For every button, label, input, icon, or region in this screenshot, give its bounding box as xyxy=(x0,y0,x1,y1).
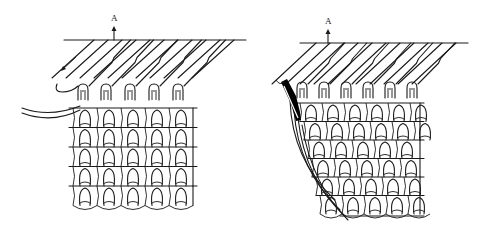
needles-left xyxy=(78,40,226,100)
stitch-leg xyxy=(121,186,123,206)
stitch-loop xyxy=(104,169,115,187)
stitch-leg xyxy=(145,167,147,187)
hatch-line xyxy=(356,43,400,84)
stitch-leg xyxy=(169,147,171,167)
stitch-loop xyxy=(104,110,115,128)
sinker-arc xyxy=(151,182,163,184)
stitch-leg xyxy=(334,159,336,178)
stitch-leg xyxy=(97,108,99,128)
stitch-loop xyxy=(176,169,187,187)
needle-hook xyxy=(341,82,351,98)
stitch-loop xyxy=(80,130,91,148)
needle-bed-hatching-left xyxy=(52,40,234,78)
bottom-scallop xyxy=(169,206,193,210)
stitch-leg xyxy=(396,140,398,159)
sinker-arc xyxy=(127,143,139,145)
sinker-arc xyxy=(127,124,139,126)
needle-latch xyxy=(151,91,157,100)
sinker-arc xyxy=(175,143,187,145)
stitch-leg xyxy=(352,140,354,159)
stitch-loop xyxy=(402,142,413,159)
stitch-leg xyxy=(322,103,324,122)
sinker-arc xyxy=(331,136,343,138)
sinker-arc xyxy=(401,155,413,157)
stitch-loop xyxy=(380,142,391,159)
stitch-loop xyxy=(350,105,361,122)
sinker-arc xyxy=(79,163,91,165)
sinker-arc xyxy=(305,118,317,120)
bottom-scallop xyxy=(320,214,342,218)
hatch-line xyxy=(370,43,414,84)
sinker-arc xyxy=(175,202,187,204)
stitch-loop xyxy=(176,110,187,128)
edge-strand xyxy=(302,125,348,220)
sinker-arc xyxy=(151,163,163,165)
stitch-loop xyxy=(314,142,325,159)
sinker-arc xyxy=(79,124,91,126)
sinker-arc xyxy=(361,173,373,175)
stitch-leg xyxy=(404,177,406,196)
stitch-loop xyxy=(414,198,425,215)
needle-latch xyxy=(343,89,349,98)
stitch-leg xyxy=(326,122,328,141)
sinker-arc xyxy=(369,210,381,212)
sinker-arc xyxy=(325,210,337,212)
sinker-arc xyxy=(393,118,405,120)
needle-stem xyxy=(308,43,345,84)
needle-bed-hatching-right xyxy=(272,43,456,84)
stitch-loop xyxy=(128,188,139,206)
stitch-leg xyxy=(97,167,99,187)
sinker-arc xyxy=(383,173,395,175)
needle-latch xyxy=(175,91,181,100)
sinker-arc xyxy=(103,163,115,165)
stitch-leg xyxy=(145,186,147,206)
stitch-loop xyxy=(152,149,163,167)
label-a-right: A xyxy=(325,16,332,26)
stitch-loop xyxy=(332,124,343,141)
stitch-leg xyxy=(330,140,332,159)
sinker-arc xyxy=(347,210,359,212)
needle-latch xyxy=(127,91,133,100)
bottom-scallop xyxy=(145,206,169,210)
stitch-leg xyxy=(400,159,402,178)
stitch-loop xyxy=(104,130,115,148)
fabric-left xyxy=(69,108,197,210)
sinker-arc xyxy=(79,202,91,204)
needle-hook xyxy=(78,84,88,100)
sinker-arc xyxy=(103,143,115,145)
hatch-line xyxy=(272,43,316,84)
stitch-loop xyxy=(80,110,91,128)
left-panel: A xyxy=(22,13,246,210)
sinker-arc xyxy=(103,182,115,184)
stitch-leg xyxy=(121,108,123,128)
sinker-arc xyxy=(79,182,91,184)
stitch-leg xyxy=(408,196,410,215)
stitch-leg xyxy=(374,140,376,159)
stitch-loop xyxy=(128,149,139,167)
stitch-leg xyxy=(97,128,99,148)
direction-arrow-icon xyxy=(61,57,76,71)
stitch-loop xyxy=(366,179,377,196)
sinker-arc xyxy=(365,192,377,194)
stitch-leg xyxy=(360,177,362,196)
needle-latch xyxy=(387,89,393,98)
stitch-leg xyxy=(382,177,384,196)
stitch-leg xyxy=(121,167,123,187)
sinker-arc xyxy=(317,173,329,175)
stitch-loop xyxy=(128,169,139,187)
stitch-loop xyxy=(104,149,115,167)
sinker-arc xyxy=(175,163,187,165)
sinker-arc xyxy=(397,136,409,138)
stitch-leg xyxy=(73,186,75,206)
sinker-arc xyxy=(103,202,115,204)
needle-latch xyxy=(80,91,86,100)
sinker-arc xyxy=(371,118,383,120)
stitch-leg xyxy=(392,122,394,141)
sinker-arc xyxy=(353,136,365,138)
stitch-loop xyxy=(354,124,365,141)
stitch-leg xyxy=(97,147,99,167)
stitch-leg xyxy=(145,108,147,128)
sinker-arc xyxy=(79,143,91,145)
stitch-leg xyxy=(121,128,123,148)
stitch-loop xyxy=(152,188,163,206)
